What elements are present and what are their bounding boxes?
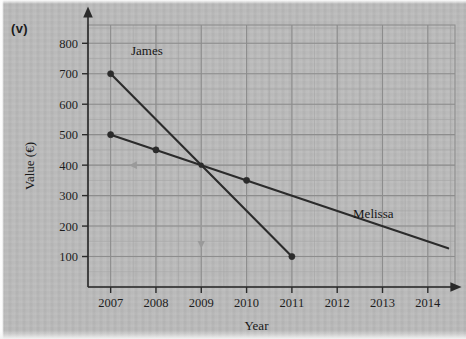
x-tick-label: 2014 <box>415 296 441 310</box>
x-tick-label: 2012 <box>325 296 350 310</box>
series-label-melissa: Melissa <box>353 206 394 221</box>
series-marker <box>153 147 159 153</box>
y-tick-label: 200 <box>59 220 78 234</box>
x-tick-label: 2009 <box>189 296 214 310</box>
y-tick-label: 800 <box>59 37 78 51</box>
x-tick-label: 2010 <box>234 296 259 310</box>
y-tick-label: 400 <box>59 159 78 173</box>
series-marker <box>243 177 249 183</box>
intersection-marker <box>199 163 204 168</box>
y-tick-label: 600 <box>59 98 78 112</box>
series-label-james: James <box>131 43 163 58</box>
series-marker <box>108 132 114 138</box>
y-tick-label: 100 <box>59 250 78 264</box>
y-tick-label: 700 <box>59 67 78 81</box>
x-tick-label: 2007 <box>98 296 123 310</box>
series-labels: JamesMelissa <box>131 43 394 221</box>
grid-minor <box>88 25 455 287</box>
grid-major <box>88 25 455 287</box>
series-marker <box>108 71 114 77</box>
series-line <box>111 135 449 249</box>
y-axis-ticks: 100200300400500600700800 <box>59 37 88 264</box>
plot-frame <box>88 25 455 287</box>
line-chart: 100200300400500600700800 200720082009201… <box>0 0 466 339</box>
y-tick-label: 500 <box>59 128 78 142</box>
figure-panel: (v) 100200300400500600700800 20072008200… <box>0 0 466 339</box>
y-tick-label: 300 <box>59 189 78 203</box>
y-axis-title: Value (€) <box>22 142 37 190</box>
x-axis-ticks: 20072008200920102011201220132014 <box>98 287 441 310</box>
x-tick-label: 2011 <box>280 296 305 310</box>
x-tick-label: 2008 <box>143 296 168 310</box>
x-tick-label: 2013 <box>370 296 395 310</box>
construction-guides <box>136 165 202 242</box>
x-axis-title: Year <box>245 318 270 333</box>
series-marker <box>289 253 295 259</box>
